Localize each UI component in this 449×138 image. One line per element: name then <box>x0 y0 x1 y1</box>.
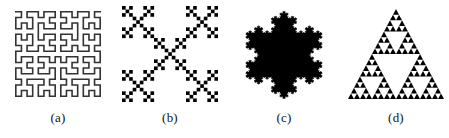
fractal-panel-d: (d) <box>340 0 449 138</box>
vicsek-squares-group <box>122 6 218 102</box>
fractal-panel-b: (b) <box>114 0 226 138</box>
fractal-panel-c: (c) <box>228 0 340 138</box>
fractal-figure: (a) (b) (c) (d) <box>0 0 449 138</box>
koch-snowflake-path <box>246 11 322 99</box>
caption-a: (a) <box>50 110 65 126</box>
fractal-panel-a: (a) <box>2 0 114 138</box>
sierpinski-triangles-group <box>348 9 444 99</box>
koch-snowflake-image <box>234 2 334 106</box>
hilbert-curve-image <box>8 2 108 106</box>
vicsek-fractal-image <box>120 2 220 106</box>
caption-b: (b) <box>162 110 178 126</box>
caption-d: (d) <box>388 110 404 126</box>
caption-c: (c) <box>276 110 291 126</box>
sierpinski-triangle-image <box>346 2 446 106</box>
hilbert-curve-path <box>16 12 100 96</box>
